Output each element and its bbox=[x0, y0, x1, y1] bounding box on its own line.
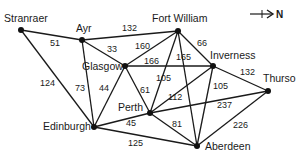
edge-weight: 44 bbox=[99, 83, 109, 93]
edge-inverness-aberdeen bbox=[197, 66, 213, 146]
edge-weight: 132 bbox=[122, 23, 137, 33]
road-network-diagram: 5112413233731601664461661051651121051322… bbox=[0, 0, 306, 158]
edge-weight: 45 bbox=[126, 118, 136, 128]
node-ayr bbox=[79, 37, 85, 43]
edge-weight: 237 bbox=[217, 100, 232, 110]
node-perth bbox=[147, 110, 153, 116]
edge-weight: 66 bbox=[197, 38, 207, 48]
city-label-inverness: Inverness bbox=[210, 49, 256, 61]
north-arrow-icon: N bbox=[250, 9, 283, 20]
node-inverness bbox=[210, 63, 216, 69]
edge-weight: 165 bbox=[176, 52, 191, 62]
city-label-stranraer: Stranraer bbox=[4, 12, 48, 24]
north-label: N bbox=[276, 9, 283, 20]
node-aberdeen bbox=[194, 143, 200, 149]
edge-weight: 105 bbox=[213, 81, 228, 91]
city-label-glasgow: Glasgow bbox=[82, 60, 123, 72]
edge-weight: 166 bbox=[144, 56, 159, 66]
city-label-thurso: Thurso bbox=[263, 72, 296, 84]
edge-weight: 226 bbox=[233, 120, 248, 130]
edge-edinburgh-aberdeen bbox=[94, 127, 197, 146]
edge-weight: 81 bbox=[172, 119, 182, 129]
node-thurso bbox=[265, 88, 271, 94]
city-label-aberdeen: Aberdeen bbox=[205, 140, 251, 152]
edge-weight: 73 bbox=[75, 83, 85, 93]
node-fortwilliam bbox=[175, 28, 181, 34]
node-stranraer bbox=[18, 27, 24, 33]
node-glasgow bbox=[122, 63, 128, 69]
edge-weight: 105 bbox=[156, 73, 171, 83]
edge-weight: 124 bbox=[40, 78, 55, 88]
edge-perth-edinburgh bbox=[94, 113, 150, 127]
edge-weight: 132 bbox=[240, 67, 255, 77]
edge-thurso-aberdeen bbox=[197, 91, 268, 146]
edge-weight: 125 bbox=[128, 138, 143, 148]
city-label-perth: Perth bbox=[118, 101, 143, 113]
edge-weight: 61 bbox=[140, 85, 150, 95]
edge-weight: 112 bbox=[168, 92, 182, 102]
node-edinburgh bbox=[91, 124, 97, 130]
city-label-edinburgh: Edinburgh bbox=[43, 120, 91, 132]
edge-weight: 160 bbox=[135, 41, 150, 51]
city-label-fortwilliam: Fort William bbox=[152, 12, 208, 24]
edge-weight: 33 bbox=[107, 44, 117, 54]
edge-weight: 51 bbox=[50, 38, 60, 48]
city-label-ayr: Ayr bbox=[76, 22, 92, 34]
graph-svg: 5112413233731601664461661051651121051322… bbox=[0, 0, 306, 158]
edge-glasgow-edinburgh bbox=[94, 66, 125, 127]
